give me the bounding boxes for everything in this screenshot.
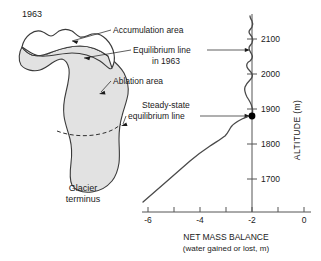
y-tick-label-1900: 1900 — [261, 104, 280, 114]
x-axis-subtitle: (water gained or lost, m) — [183, 244, 270, 253]
y-axis-title: ALTITUDE (m) — [292, 100, 302, 160]
callout-equilibrium-line-1963-l1: Equilibrium line — [133, 45, 191, 55]
glacier-terminus-label-line2: terminus — [66, 194, 101, 204]
callout-steady-state-l1: Steady-state — [142, 100, 190, 110]
callout-steady-state-l2: equilibrium line — [128, 111, 185, 121]
y-tick-label-1800: 1800 — [261, 139, 280, 149]
arrowhead-steady-state-left — [121, 122, 128, 126]
leader-steady-state-left — [123, 116, 126, 124]
year-label: 1963 — [22, 9, 42, 19]
figure-svg: 1963 Glacier terminus Accumulation area … — [0, 0, 321, 261]
x-tick-label-zero: 0 — [302, 215, 307, 225]
y-tick-label-2100: 2100 — [261, 34, 280, 44]
figure-container: 1963 Glacier terminus Accumulation area … — [0, 0, 321, 261]
callout-equilibrium-line-1963-l2: in 1963 — [152, 56, 180, 66]
callout-accumulation-area: Accumulation area — [113, 25, 184, 35]
y-tick-label-1700: 1700 — [261, 174, 280, 184]
x-tick-group — [148, 207, 304, 212]
x-tick-label-neg2: -2 — [248, 215, 256, 225]
x-axis-title: NET MASS BALANCE — [183, 232, 269, 242]
glacier-map: 1963 Glacier terminus — [19, 9, 128, 204]
glacier-terminus-label-line1: Glacier — [69, 183, 98, 193]
steady-state-equilibrium-marker — [249, 113, 256, 120]
x-tick-label-neg4: -4 — [196, 215, 204, 225]
y-tick-label-2000: 2000 — [261, 69, 280, 79]
x-tick-label-group: -6 -4 -2 0 — [144, 215, 306, 225]
callout-ablation-area: Ablation area — [113, 76, 163, 86]
x-tick-label-neg6: -6 — [144, 215, 152, 225]
